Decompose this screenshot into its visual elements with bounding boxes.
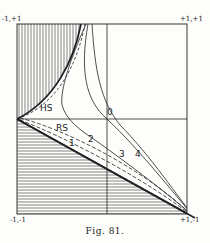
corner-label-bottom-left: -1,-1 <box>10 216 26 224</box>
curve-4-upper <box>92 24 120 125</box>
curve-1-label: 1 <box>69 138 75 148</box>
corner-label-bottom-right: +1,-1 <box>180 216 199 224</box>
curve-4-label: 4 <box>135 149 141 159</box>
hs-label: HS <box>40 103 53 113</box>
figure-caption: Fig. 81. <box>0 226 210 236</box>
diagram-canvas: -1,+1 +1,+1 -1,-1 +1,-1 0 HS RS 1 2 3 4 <box>0 0 210 243</box>
curve-3-upper <box>84 24 107 119</box>
corner-label-top-left: -1,+1 <box>2 15 21 23</box>
corner-label-top-right: +1,+1 <box>180 15 203 23</box>
curve-3-label: 3 <box>119 149 125 159</box>
origin-label: 0 <box>107 107 113 117</box>
rs-label: RS <box>56 123 68 133</box>
curve-2-label: 2 <box>88 134 94 144</box>
